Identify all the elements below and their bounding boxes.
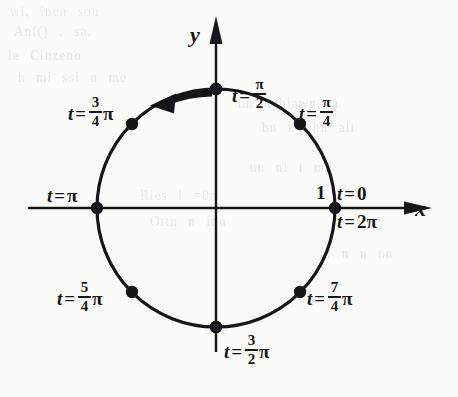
fraction-denominator: 4: [79, 299, 91, 314]
equals-sign: =: [75, 104, 86, 123]
fraction-three-over-four: 3 4: [89, 95, 102, 130]
marker-t-7pi-4: [294, 286, 306, 298]
radius-label-one: 1: [316, 182, 326, 204]
label-t-pi: t = π: [47, 186, 78, 205]
x-axis-label: x: [415, 196, 426, 222]
marker-t-pi: [91, 202, 103, 214]
label-t-pi-over-2: t = π 2: [232, 78, 267, 113]
fraction-denominator: 4: [321, 114, 333, 129]
fraction-numerator: 5: [79, 280, 91, 295]
fraction-numerator: π: [254, 77, 266, 92]
equals-sign: =: [231, 342, 242, 361]
label-t-pi-over-4: t = π 4: [299, 96, 334, 131]
label-t-zero: t = 0: [337, 184, 367, 203]
marker-t-pi-2: [210, 83, 223, 96]
fraction-numerator: π: [321, 95, 333, 110]
fraction-seven-over-four: 7 4: [328, 280, 341, 315]
label-t-seven-quarter-pi: t = 7 4 π: [307, 281, 353, 316]
fraction-denominator: 2: [246, 352, 258, 367]
fraction-numerator: 3: [90, 95, 102, 110]
label-t-three-quarter-pi: t = 3 4 π: [68, 96, 114, 131]
pi-symbol: π: [92, 289, 102, 308]
figure-page: wi, inen sou Anf() . sa. le Cinzeno h mi…: [0, 0, 458, 397]
fraction-numerator: 3: [246, 333, 258, 348]
label-t-five-quarter-pi: t = 5 4 π: [57, 281, 103, 316]
coefficient-two: 2: [357, 212, 367, 231]
y-axis: [210, 16, 223, 352]
pi-symbol: π: [367, 212, 377, 231]
equals-sign: =: [64, 289, 75, 308]
y-axis-label: y: [190, 22, 200, 48]
pi-symbol: π: [259, 342, 269, 361]
t-variable: t: [299, 104, 304, 123]
fraction-three-over-two: 3 2: [245, 333, 258, 368]
pi-symbol: π: [342, 289, 352, 308]
pi-symbol: π: [103, 104, 113, 123]
t-variable: t: [337, 184, 342, 203]
fraction-five-over-four: 5 4: [78, 280, 91, 315]
equals-sign: =: [239, 86, 250, 105]
t-variable: t: [307, 289, 312, 308]
marker-t-5pi-4: [126, 286, 138, 298]
label-t-three-half-pi: t = 3 2 π: [224, 334, 270, 369]
label-t-two-pi: t = 2 π: [337, 212, 377, 231]
fraction-denominator: 4: [90, 114, 102, 129]
t-variable: t: [57, 289, 62, 308]
fraction-numerator: 7: [329, 280, 341, 295]
equals-sign: =: [54, 186, 65, 205]
marker-t-3pi-2: [210, 321, 223, 334]
t-variable: t: [68, 104, 73, 123]
marker-t-3pi-4: [126, 118, 138, 130]
equals-sign: =: [344, 184, 355, 203]
t-variable: t: [224, 342, 229, 361]
equals-sign: =: [344, 212, 355, 231]
equals-sign: =: [314, 289, 325, 308]
zero-value: 0: [357, 184, 367, 203]
fraction-pi-over-4: π 4: [320, 95, 333, 130]
fraction-denominator: 2: [254, 96, 266, 111]
t-variable: t: [337, 212, 342, 231]
fraction-denominator: 4: [329, 299, 341, 314]
t-variable: t: [47, 186, 52, 205]
fraction-pi-over-2: π 2: [253, 77, 266, 112]
t-variable: t: [232, 86, 237, 105]
pi-symbol: π: [67, 186, 77, 205]
equals-sign: =: [306, 104, 317, 123]
